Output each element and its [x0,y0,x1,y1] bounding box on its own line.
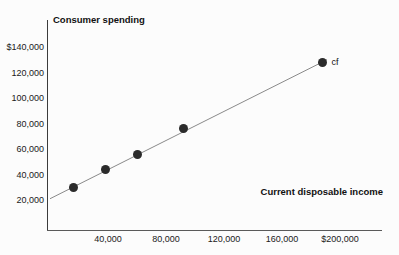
y-tick-label: 40,000 [16,170,44,180]
data-point-marker [318,58,327,67]
y-tick-label: 100,000 [11,93,44,103]
x-axis-line [47,230,382,231]
y-axis-title: Consumer spending [53,14,145,26]
plot-canvas [0,0,399,255]
x-tick-label: 80,000 [152,234,180,244]
y-tick-label: $140,000 [6,42,44,52]
y-tick-label: 80,000 [16,119,44,129]
chart-figure: Consumer spending Current disposable inc… [0,0,399,255]
series-annotation-cf: cf [332,57,339,67]
data-point-marker [69,183,78,192]
data-point-marker [101,165,110,174]
x-tick-label: 120,000 [208,234,241,244]
data-point-marker [133,150,142,159]
y-tick-label: 20,000 [16,195,44,205]
x-tick-label: 160,000 [266,234,299,244]
y-tick-label: 120,000 [11,68,44,78]
y-tick-label: 60,000 [16,144,44,154]
x-axis-title: Current disposable income [261,186,383,198]
consumption-function-line [50,60,327,199]
x-tick-label: $200,000 [321,234,359,244]
data-point-marker [179,124,188,133]
x-tick-label: 40,000 [94,234,122,244]
y-axis-line [47,20,48,231]
